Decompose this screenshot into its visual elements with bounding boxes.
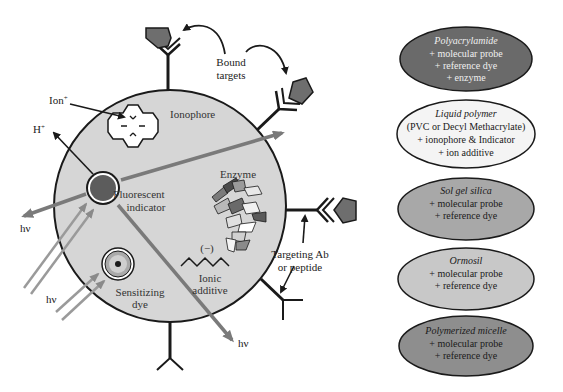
matrix-polymerized-micelle: Polymerized micelle + molecular probe + …	[399, 316, 533, 376]
svg-text:+ reference dye: + reference dye	[435, 210, 498, 221]
label-targeting-2: or peptide	[278, 261, 322, 273]
svg-text:+ reference dye: + reference dye	[435, 60, 498, 71]
nanosensor-diagram: Ionophore Fluorescent indicator Enzyme (…	[0, 0, 563, 392]
svg-text:Polymerized micelle: Polymerized micelle	[424, 325, 507, 336]
matrix-polyacrylamide: Polyacrylamide + molecular probe + refer…	[400, 27, 532, 91]
matrix-sol-gel-silica: Sol gel silica + molecular probe + refer…	[398, 178, 534, 240]
bound-target-top	[146, 28, 171, 48]
targeting-arrow-up	[303, 216, 305, 243]
label-hv-left: hν	[20, 222, 31, 234]
label-hv-lower-left: hν	[46, 293, 57, 305]
svg-text:+ ion additive: + ion additive	[438, 147, 494, 158]
label-ionic-additive: Ionic	[199, 272, 222, 284]
label-ionophore: Ionophore	[170, 108, 215, 120]
label-sensitizing-dye-2: dye	[132, 298, 148, 310]
bound-target-upper-right	[289, 78, 313, 104]
antibody-right	[286, 198, 334, 222]
label-bound-targets-2: targets	[216, 69, 245, 81]
label-fluorescent-indicator: Fluorescent	[113, 188, 164, 200]
sensitizing-dye-icon	[102, 248, 134, 280]
svg-text:+ molecular probe: + molecular probe	[429, 338, 503, 349]
svg-text:+ molecular probe: + molecular probe	[429, 268, 503, 279]
label-sensitizing-dye: Sensitizing	[116, 286, 165, 298]
label-bound-targets: Bound	[216, 56, 246, 68]
target-right	[334, 198, 356, 223]
svg-text:Liquid polymer: Liquid polymer	[434, 108, 496, 119]
svg-text:Sol gel silica: Sol gel silica	[440, 185, 492, 196]
bound-targets-arrow-left	[184, 26, 225, 54]
svg-text:+ reference dye: + reference dye	[435, 280, 498, 291]
label-ion: Ion+	[49, 94, 68, 106]
label-enzyme: Enzyme	[220, 168, 256, 180]
svg-text:Ormosil: Ormosil	[450, 255, 483, 266]
label-hv-bottom: hν	[238, 337, 249, 349]
matrix-liquid-polymer: Liquid polymer (PVC or Decyl Methacrylat…	[397, 100, 535, 168]
antibody-bottom	[157, 322, 183, 370]
svg-text:+ molecular probe: + molecular probe	[429, 198, 503, 209]
matrix-ormosil: Ormosil + molecular probe + reference dy…	[398, 248, 534, 310]
svg-text:+ molecular probe: + molecular probe	[429, 48, 503, 59]
svg-text:Polyacrylamide: Polyacrylamide	[433, 35, 498, 46]
svg-text:(PVC or Decyl Methacrylate): (PVC or Decyl Methacrylate)	[407, 121, 526, 133]
label-ionic-additive-2: additive	[192, 284, 228, 296]
svg-text:+ reference dye: + reference dye	[435, 350, 498, 361]
label-fluorescent-indicator-2: indicator	[126, 201, 165, 213]
bound-targets-arrow-right	[246, 46, 286, 73]
label-proton: H+	[33, 123, 45, 135]
antibody-lower-right	[261, 279, 303, 320]
svg-text:+ ionophore & Indicator: + ionophore & Indicator	[417, 134, 515, 145]
label-targeting: Targeting Ab	[271, 248, 329, 260]
svg-text:+ enzyme: + enzyme	[446, 72, 486, 83]
label-ionic-charge: (−)	[200, 242, 214, 255]
